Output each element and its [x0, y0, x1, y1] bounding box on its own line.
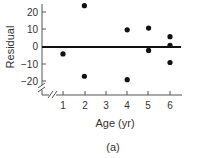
y-tick-label: −20	[21, 76, 38, 87]
x-tick-label: 2	[82, 100, 88, 111]
y-tick-label: −10	[21, 59, 38, 70]
x-axis-break	[48, 91, 57, 98]
x-tick-label: 4	[124, 100, 130, 111]
y-tick-label: 20	[27, 7, 39, 18]
data-point	[167, 60, 172, 65]
data-point	[146, 25, 151, 30]
x-tick-label: 1	[60, 100, 66, 111]
y-axis-label: Residual	[4, 26, 16, 69]
y-tick-label: 10	[27, 24, 39, 35]
y-tick-label: 0	[32, 41, 38, 52]
data-point	[82, 74, 87, 79]
x-ticks	[63, 91, 170, 95]
data-point	[167, 43, 172, 48]
x-axis-label: Age (yr)	[95, 117, 134, 129]
data-point	[82, 3, 87, 8]
residual-plot: 20 10 0 −10 −20 Residual 1 2 3 4 5 6 Age…	[0, 0, 197, 158]
data-point	[146, 48, 151, 53]
data-point	[167, 34, 172, 39]
data-point	[60, 51, 65, 56]
data-point	[125, 77, 130, 82]
data-points	[60, 3, 172, 82]
x-tick-label: 6	[167, 100, 173, 111]
x-tick-label: 3	[103, 100, 109, 111]
x-tick-label: 5	[145, 100, 151, 111]
figure-caption: (a)	[106, 141, 119, 153]
data-point	[125, 27, 130, 32]
